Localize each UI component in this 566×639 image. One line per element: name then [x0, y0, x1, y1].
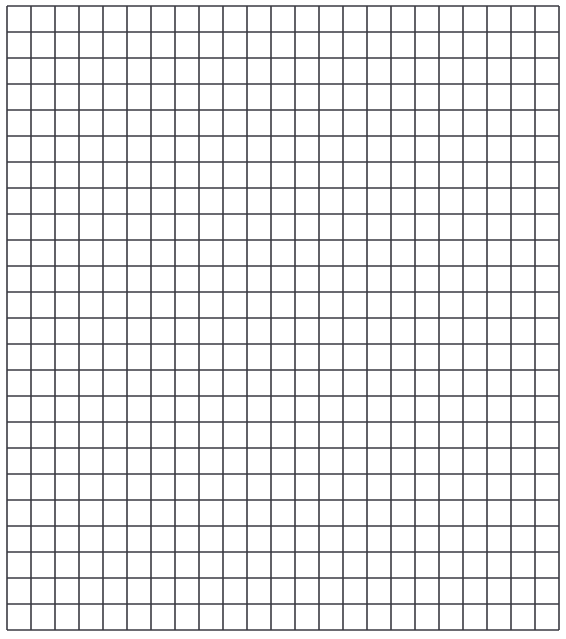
graph-paper-canvas [0, 0, 566, 639]
grid-lines [0, 0, 566, 639]
